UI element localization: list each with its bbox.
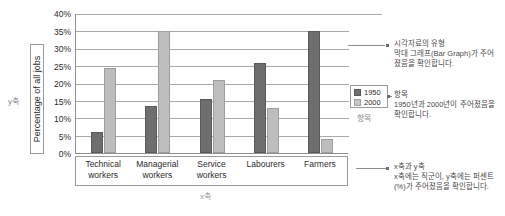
annotation-3-title: x축과 y축 <box>394 162 498 172</box>
bar-group <box>239 14 293 153</box>
legend-caption: 항목 <box>357 112 371 123</box>
annotation-bullet-2 <box>387 95 390 98</box>
annotation-1-title: 시각자료의 유형 <box>394 39 498 49</box>
y-axis-tick: 5% <box>59 132 71 142</box>
legend-swatch-2000 <box>354 99 361 106</box>
x-axis-category-label: Managerialworkers <box>130 157 184 185</box>
annotation-2-body: 1950년과 2000년이 주어졌음을 확인합니다. <box>394 100 498 120</box>
y-axis-title: Percentage of all jobs <box>32 56 42 143</box>
category-label-line: workers <box>142 170 172 181</box>
bar-group <box>294 14 348 153</box>
annotation-bullet-1 <box>386 44 389 47</box>
y-axis-tick: 30% <box>54 44 71 54</box>
plot-area <box>75 14 348 154</box>
annotation-3-body: x축에는 직군이, y축에는 퍼센트(%)가 주어졌음을 확인합니다. <box>394 172 498 192</box>
legend-item[interactable]: 2000 <box>354 98 385 107</box>
y-axis-tick: 25% <box>54 62 71 72</box>
x-axis-category-label: Serviceworkers <box>184 157 238 185</box>
annotation-2: 항목 1950년과 2000년이 주어졌음을 확인합니다. <box>394 90 498 120</box>
legend-swatch-1950 <box>354 89 361 96</box>
annotation-leader-line-1 <box>348 45 385 46</box>
chart-plot-wrapper: 0%5%10%15%20%25%30%35%40% <box>48 14 348 154</box>
y-axis-tick: 10% <box>54 114 71 124</box>
annotation-2-title: 항목 <box>394 90 498 100</box>
legend-item[interactable]: 1950 <box>354 88 385 97</box>
y-axis-outer-label: y축 <box>8 95 19 106</box>
y-axis-tick: 40% <box>54 9 71 19</box>
x-axis-category-label: Technicalworkers <box>76 157 130 185</box>
annotation-3: x축과 y축 x축에는 직군이, y축에는 퍼센트(%)가 주어졌음을 확인합니… <box>394 162 498 192</box>
x-axis-category-label: Farmers <box>293 157 347 185</box>
bar-2000[interactable] <box>158 31 170 153</box>
annotation-bullet-3 <box>386 167 389 170</box>
bar-group <box>185 14 239 153</box>
legend-label: 1950 <box>364 88 381 97</box>
bar-1950[interactable] <box>254 63 266 153</box>
bar-1950[interactable] <box>308 31 320 153</box>
bar-2000[interactable] <box>321 139 333 153</box>
y-axis-tick: 0% <box>59 149 71 159</box>
y-axis-tick-labels: 0%5%10%15%20%25%30%35%40% <box>48 14 74 154</box>
x-axis-outer-label: x축 <box>200 190 211 201</box>
bar-graph-annotated-figure: { "axes": { "y_outer_label": "y축", "y_ti… <box>0 0 505 216</box>
bar-group <box>130 14 184 153</box>
bar-1950[interactable] <box>145 106 157 153</box>
bar-2000[interactable] <box>104 68 116 153</box>
legend-label: 2000 <box>364 98 381 107</box>
bar-series-container <box>76 14 348 153</box>
y-axis-tick: 15% <box>54 97 71 107</box>
bar-1950[interactable] <box>200 99 212 153</box>
y-axis-tick: 35% <box>54 27 71 37</box>
annotation-1: 시각자료의 유형 막대 그래프(Bar Graph)가 주어졌음을 확인합니다. <box>394 39 498 69</box>
category-label-line: Service <box>197 159 225 170</box>
legend: 19502000 <box>350 85 388 108</box>
category-label-line: Labourers <box>247 159 285 170</box>
bar-1950[interactable] <box>91 132 103 153</box>
x-axis-category-label: Labourers <box>239 157 293 185</box>
annotation-leader-line-3 <box>356 168 386 169</box>
category-label-line: workers <box>197 170 227 181</box>
y-axis-tick: 20% <box>54 79 71 89</box>
y-axis-title-box: Percentage of all jobs <box>30 44 44 154</box>
bar-group <box>76 14 130 153</box>
bar-2000[interactable] <box>213 80 225 153</box>
category-label-line: Farmers <box>304 159 336 170</box>
category-label-line: Technical <box>85 159 120 170</box>
category-label-line: workers <box>88 170 118 181</box>
x-axis-category-box: TechnicalworkersManagerialworkersService… <box>75 156 348 186</box>
annotation-1-body: 막대 그래프(Bar Graph)가 주어졌음을 확인합니다. <box>394 49 498 69</box>
bar-2000[interactable] <box>267 108 279 153</box>
category-label-line: Managerial <box>136 159 178 170</box>
